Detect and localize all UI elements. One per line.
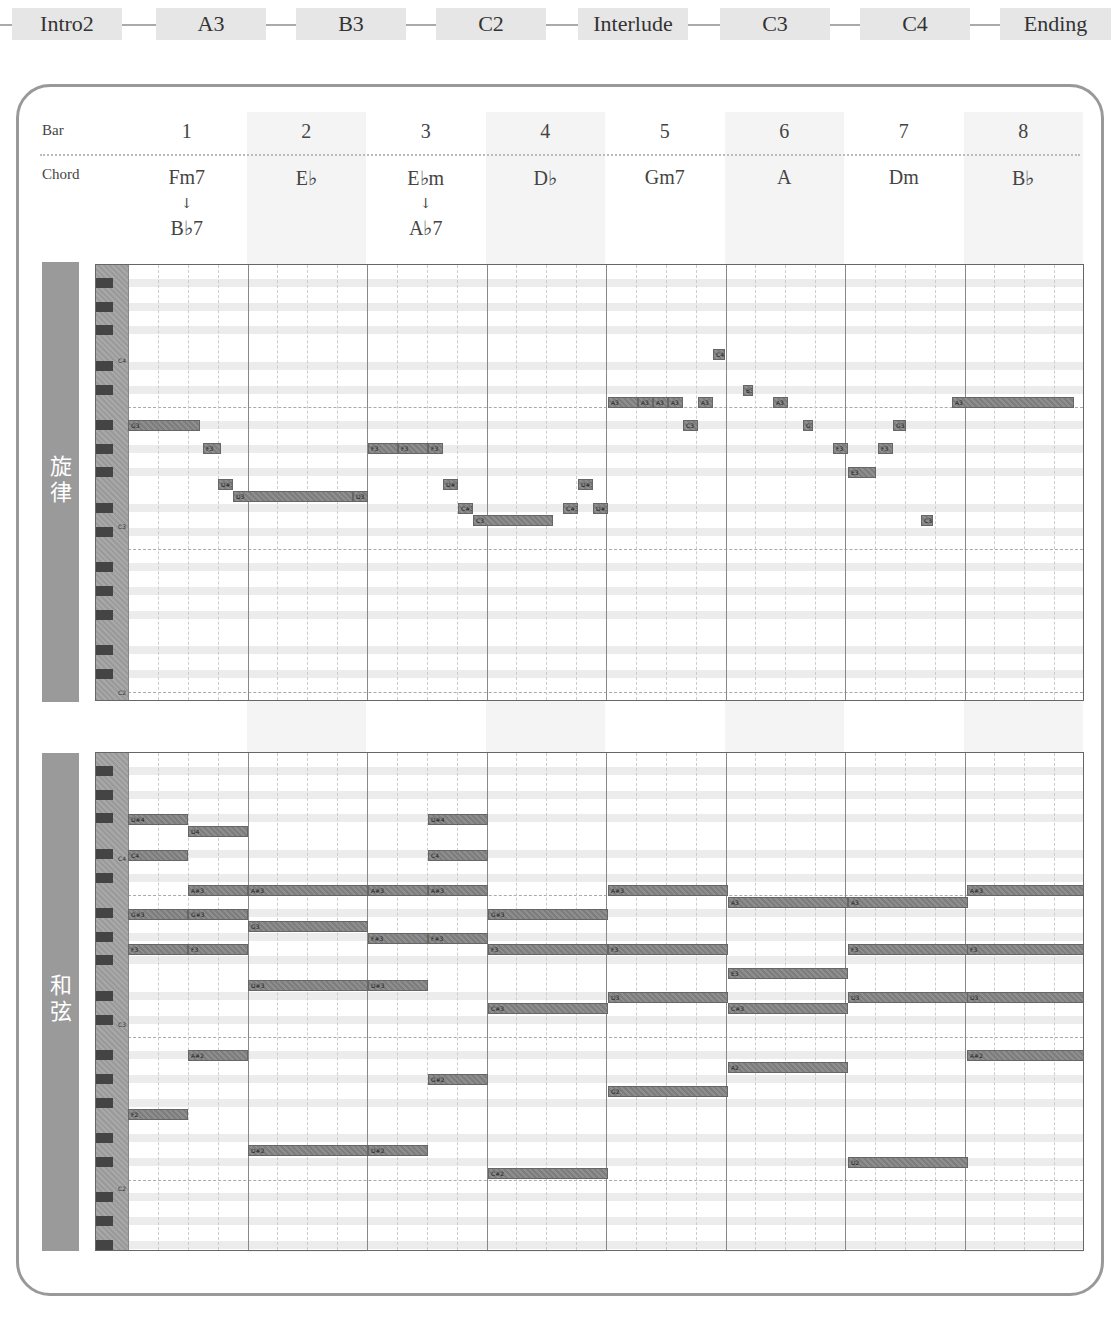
note-block[interactable]: A#2 xyxy=(967,1050,1084,1061)
note-block[interactable]: E3 xyxy=(848,467,876,478)
note-block[interactable]: C3 xyxy=(921,515,933,526)
bar-line xyxy=(128,753,129,1250)
note-block[interactable]: F3 xyxy=(488,944,608,955)
beat-line xyxy=(696,265,697,700)
melody-piano-roll: C4C3C2G3F3D#3D3D3F3F3F3D#3C#3C3C#3D#3D#3… xyxy=(95,264,1084,701)
note-block[interactable]: A3 xyxy=(653,397,668,408)
black-key xyxy=(96,932,113,942)
chord-name: A xyxy=(744,166,824,189)
note-block[interactable]: A3 xyxy=(773,397,788,408)
note-block[interactable]: G3 xyxy=(248,921,368,932)
note-block[interactable]: A3 xyxy=(952,397,1074,408)
note-block[interactable]: D3 xyxy=(848,992,968,1003)
note-block[interactable]: C3 xyxy=(683,420,698,431)
black-key xyxy=(96,766,113,776)
note-block[interactable]: C4 xyxy=(128,850,188,861)
note-block[interactable]: G2 xyxy=(608,1086,728,1097)
note-block[interactable]: D#3 xyxy=(218,479,233,490)
black-key xyxy=(96,1192,113,1202)
note-block[interactable]: E3 xyxy=(728,968,848,979)
note-block[interactable]: F3 xyxy=(398,443,428,454)
note-block[interactable]: F3 xyxy=(848,944,968,955)
note-block[interactable]: D3 xyxy=(353,491,368,502)
note-block[interactable]: A3 xyxy=(698,397,713,408)
note-block[interactable]: F3 xyxy=(203,443,221,454)
bar-line xyxy=(128,265,129,700)
note-block[interactable]: F3 xyxy=(878,443,893,454)
chord-change-arrow-icon: ↓ xyxy=(147,194,227,212)
black-key xyxy=(96,610,113,620)
note-block[interactable]: F3 xyxy=(368,443,398,454)
note-block[interactable]: A#3 xyxy=(188,885,248,896)
note-block[interactable]: F3 xyxy=(608,944,728,955)
note-block[interactable]: A#3 xyxy=(967,885,1084,896)
note-block[interactable]: D#3 xyxy=(443,479,458,490)
note-block[interactable]: C4 xyxy=(428,850,488,861)
note-block[interactable]: C#2 xyxy=(488,1168,608,1179)
note-block[interactable]: A3 xyxy=(638,397,653,408)
note-block[interactable]: D#4 xyxy=(428,814,488,825)
note-block[interactable]: G3 xyxy=(893,420,906,431)
note-block[interactable]: G3 xyxy=(128,420,200,431)
black-key xyxy=(96,1157,113,1167)
note-block[interactable]: G#3 xyxy=(488,909,608,920)
section-block: C3 xyxy=(720,8,830,40)
note-block[interactable]: D3 xyxy=(233,491,353,502)
chord-name: Dm xyxy=(864,166,944,189)
key-octave-label: C3 xyxy=(118,1021,126,1028)
chord-name: E♭ xyxy=(266,166,346,190)
note-block[interactable]: C#3 xyxy=(488,1003,608,1014)
note-block[interactable]: C#3 xyxy=(563,503,578,514)
note-block[interactable]: D4 xyxy=(188,826,248,837)
key-octave-label: C4 xyxy=(118,357,126,364)
note-block[interactable]: D#2 xyxy=(248,1145,368,1156)
black-key xyxy=(96,527,113,537)
bar-number: 8 xyxy=(993,120,1053,143)
harmony-title-char-2: 弦 xyxy=(42,999,79,1025)
black-key xyxy=(96,420,113,430)
note-block[interactable]: D#3 xyxy=(368,980,428,991)
note-block[interactable]: G3 xyxy=(803,420,813,431)
note-block[interactable]: A2 xyxy=(728,1062,848,1073)
note-block[interactable]: A#3 xyxy=(608,885,728,896)
note-block[interactable]: A3 xyxy=(728,897,848,908)
note-block[interactable]: A#3 xyxy=(428,885,488,896)
note-block[interactable]: G#2 xyxy=(428,1074,488,1085)
note-block[interactable]: F#3 xyxy=(368,933,428,944)
beat-line xyxy=(427,753,428,1250)
bar-number: 3 xyxy=(396,120,456,143)
bar-line xyxy=(965,265,966,700)
note-block[interactable]: B3 xyxy=(743,385,753,396)
note-block[interactable]: C#3 xyxy=(458,503,473,514)
note-block[interactable]: D3 xyxy=(608,992,728,1003)
beat-line xyxy=(666,265,667,700)
harmony-piano-roll: C4C3C2D#4C4G#3F3F2D4A#3G#3F3A#2A#3G3D#3D… xyxy=(95,752,1084,1251)
note-block[interactable]: A#3 xyxy=(368,885,428,896)
note-block[interactable]: F#3 xyxy=(428,933,488,944)
note-block[interactable]: D#3 xyxy=(578,479,593,490)
note-block[interactable]: A#3 xyxy=(248,885,368,896)
note-block[interactable]: D3 xyxy=(967,992,1084,1003)
note-block[interactable]: A3 xyxy=(848,897,968,908)
note-block[interactable]: F3 xyxy=(128,944,188,955)
note-block[interactable]: F2 xyxy=(128,1109,188,1120)
note-block[interactable]: C#3 xyxy=(728,1003,848,1014)
note-block[interactable]: D#4 xyxy=(128,814,188,825)
note-block[interactable]: D2 xyxy=(848,1157,968,1168)
note-block[interactable]: A3 xyxy=(668,397,683,408)
note-block[interactable]: C3 xyxy=(473,515,553,526)
note-block[interactable]: G#3 xyxy=(128,909,188,920)
note-block[interactable]: C4 xyxy=(713,349,725,360)
note-block[interactable]: D#2 xyxy=(368,1145,428,1156)
note-block[interactable]: F3 xyxy=(967,944,1084,955)
note-block[interactable]: A#2 xyxy=(188,1050,248,1061)
section-block: C2 xyxy=(436,8,546,40)
note-block[interactable]: D#3 xyxy=(248,980,368,991)
note-block[interactable]: A3 xyxy=(608,397,638,408)
note-block[interactable]: F3 xyxy=(428,443,443,454)
note-block[interactable]: F3 xyxy=(188,944,248,955)
black-key xyxy=(96,908,113,918)
note-block[interactable]: D#3 xyxy=(593,503,608,514)
note-block[interactable]: G#3 xyxy=(188,909,248,920)
note-block[interactable]: F3 xyxy=(833,443,848,454)
